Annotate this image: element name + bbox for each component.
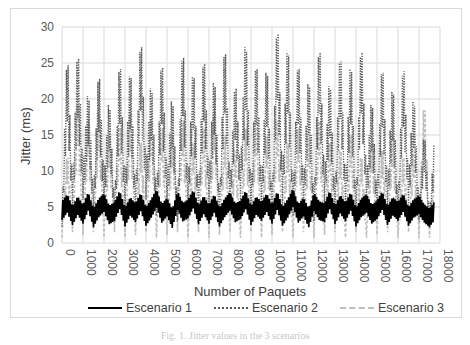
y-tick-label: 20: [41, 92, 55, 106]
dotted-line-icon: [214, 307, 248, 309]
x-tick-label: 4000: [147, 249, 161, 276]
y-axis-ticks: 051015202530: [41, 20, 55, 250]
legend-item-escenario-3: Escenario 3: [340, 301, 444, 315]
jitter-chart: 051015202530 010002000300040005000600070…: [0, 0, 470, 345]
x-tick-label: 17000: [420, 249, 434, 283]
y-tick-label: 10: [41, 164, 55, 178]
x-tick-label: 3000: [126, 249, 140, 276]
x-tick-label: 11000: [294, 249, 308, 282]
x-tick-label: 5000: [168, 249, 182, 276]
y-axis-title: Jitter (ms): [18, 107, 33, 165]
x-tick-label: 2000: [105, 249, 119, 276]
x-tick-label: 9000: [252, 249, 266, 276]
x-tick-label: 1000: [84, 249, 98, 276]
data-series: [62, 34, 434, 238]
legend-item-escenario-1: Escenario 1: [88, 301, 192, 315]
x-axis-ticks: 0100020003000400050006000700080009000100…: [63, 249, 455, 283]
x-tick-label: 18000: [441, 249, 455, 283]
y-tick-label: 5: [47, 200, 54, 214]
legend-item-escenario-2: Escenario 2: [214, 301, 318, 315]
x-tick-label: 10000: [273, 249, 287, 283]
chart-legend: Escenario 1 Escenario 2 Escenario 3: [88, 301, 466, 315]
x-tick-label: 8000: [231, 249, 245, 276]
y-tick-label: 30: [41, 20, 55, 34]
x-tick-label: 13000: [336, 249, 350, 283]
legend-label: Escenario 3: [378, 301, 444, 315]
figure-caption: Fig. 1. Jitter values in the 3 scenarios: [0, 330, 470, 341]
x-tick-label: 15000: [378, 249, 392, 283]
y-tick-label: 25: [41, 56, 55, 70]
x-axis-title: Number of Paquets: [194, 284, 307, 299]
x-tick-label: 12000: [315, 249, 329, 283]
y-tick-label: 0: [47, 236, 54, 250]
solid-line-icon: [88, 307, 122, 309]
legend-label: Escenario 1: [126, 301, 192, 315]
x-tick-label: 7000: [210, 249, 224, 276]
x-tick-label: 6000: [189, 249, 203, 276]
x-tick-label: 14000: [357, 249, 371, 283]
dashed-line-icon: [340, 307, 374, 309]
x-tick-label: 0: [63, 249, 77, 256]
legend-label: Escenario 2: [252, 301, 318, 315]
x-tick-label: 16000: [399, 249, 413, 283]
y-tick-label: 15: [41, 128, 55, 142]
